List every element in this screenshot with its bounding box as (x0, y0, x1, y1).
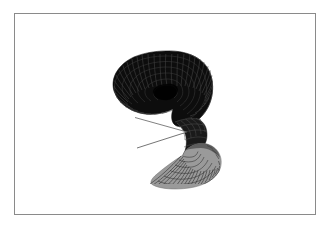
lower-funnel-group (150, 143, 221, 189)
surface-plot-3d-wireframe (15, 14, 315, 214)
page-canvas (0, 0, 332, 231)
plot-area (15, 14, 315, 214)
upper-funnel-group (113, 51, 213, 127)
figure-frame (14, 13, 316, 215)
